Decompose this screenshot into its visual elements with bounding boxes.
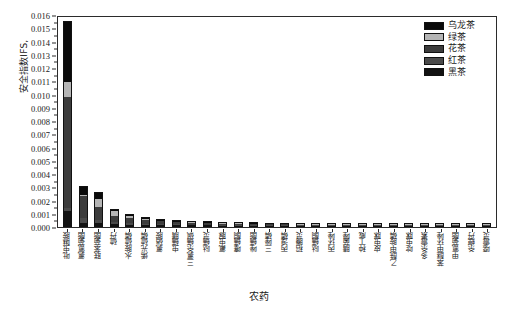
x-axis-slot: 多杀霉素	[417, 229, 433, 291]
bar-slot[interactable]	[401, 17, 417, 227]
stacked-bar[interactable]	[218, 222, 227, 227]
y-axis-tick-label: 0.011	[31, 78, 50, 87]
stacked-bar[interactable]	[389, 223, 398, 227]
y-axis-tick-mark	[52, 108, 56, 109]
x-axis-tick-mark	[114, 229, 115, 232]
x-axis-slot: 氟虫脲	[215, 229, 231, 291]
x-axis-slot: 哒螨酮	[308, 229, 324, 291]
x-axis-slot: 哒螨灵	[199, 229, 215, 291]
legend-item[interactable]: 乌龙茶	[424, 20, 496, 32]
x-axis-slot: 噁霉灵	[480, 229, 496, 291]
legend-item[interactable]: 绿茶	[424, 32, 496, 44]
legend-item[interactable]: 黑茶	[424, 66, 496, 78]
bar-slot[interactable]	[308, 17, 324, 227]
x-axis-tick-label: 噻螨酮	[234, 233, 242, 253]
stacked-bar[interactable]	[156, 219, 165, 227]
x-axis-tick-mark	[82, 229, 83, 232]
y-axis-tick-label: 0.015	[31, 25, 50, 34]
bar-slot[interactable]	[277, 17, 293, 227]
stacked-bar[interactable]	[327, 223, 336, 227]
stacked-bar[interactable]	[172, 220, 181, 227]
y-axis-tick-label: 0.014	[31, 38, 50, 47]
x-axis-tick-label: 种丁威	[359, 233, 367, 253]
x-axis-tick-label: 氯氰菊酯	[78, 233, 86, 260]
bar-slot[interactable]	[339, 17, 355, 227]
bar-slot[interactable]	[293, 17, 309, 227]
bar-slot[interactable]	[138, 17, 154, 227]
bar-slot[interactable]	[215, 17, 231, 227]
bar-segment-黑茶	[204, 225, 211, 226]
bar-slot[interactable]	[107, 17, 123, 227]
x-axis-tick-label: 甲氰菊酯	[452, 233, 460, 260]
x-axis-tick-mark	[285, 229, 286, 232]
stacked-bar[interactable]	[203, 221, 212, 227]
x-axis-slot: 啶虫脒	[402, 229, 418, 291]
stacked-bar[interactable]	[79, 186, 88, 227]
stacked-bar[interactable]	[280, 223, 289, 227]
bar-slot[interactable]	[324, 17, 340, 227]
legend-item[interactable]: 红茶	[424, 55, 496, 67]
x-axis-tick-mark	[378, 229, 379, 232]
stacked-bar[interactable]	[63, 21, 72, 227]
bar-slot[interactable]	[386, 17, 402, 227]
legend-item[interactable]: 花茶	[424, 43, 496, 55]
stacked-bar[interactable]	[373, 223, 382, 227]
bar-segment-黑茶	[173, 225, 180, 226]
bar-slot[interactable]	[60, 17, 76, 227]
bar-segment-花茶	[95, 207, 102, 220]
legend-swatch-红茶	[424, 57, 444, 65]
stacked-bar[interactable]	[141, 217, 150, 227]
stacked-bar[interactable]	[249, 222, 258, 227]
bar-slot[interactable]	[200, 17, 216, 227]
stacked-bar[interactable]	[187, 221, 196, 227]
stacked-bar[interactable]	[358, 223, 367, 227]
x-axis-slot: 皮虫脒	[371, 229, 387, 291]
bar-segment-绿茶	[64, 82, 71, 97]
stacked-bar[interactable]	[125, 214, 134, 227]
stacked-bar[interactable]	[420, 223, 429, 227]
stacked-bar[interactable]	[451, 223, 460, 227]
bar-segment-黑茶	[64, 211, 71, 226]
stacked-bar[interactable]	[234, 222, 243, 227]
bar-slot[interactable]	[370, 17, 386, 227]
bar-slot[interactable]	[91, 17, 107, 227]
x-axis-title: 农药	[0, 288, 517, 303]
y-axis-tick-label: 0.010	[31, 91, 50, 100]
legend: 乌龙茶绿茶花茶红茶黑茶	[424, 20, 496, 78]
stacked-bar[interactable]	[110, 209, 119, 227]
x-axis-tick-label: 丙环唑	[328, 233, 336, 253]
stacked-bar[interactable]	[311, 223, 320, 227]
x-axis-slot: 三唑磷	[262, 229, 278, 291]
bar-slot[interactable]	[184, 17, 200, 227]
stacked-bar[interactable]	[265, 223, 274, 227]
bar-slot[interactable]	[76, 17, 92, 227]
bar-slot[interactable]	[153, 17, 169, 227]
y-axis-tick-mark	[52, 148, 56, 149]
stacked-bar[interactable]	[94, 192, 103, 227]
bar-slot[interactable]	[231, 17, 247, 227]
x-axis-tick-mark	[98, 229, 99, 232]
y-axis: 0.0000.0010.0020.0030.0040.0050.0060.007…	[0, 0, 57, 230]
stacked-bar[interactable]	[404, 223, 413, 227]
stacked-bar[interactable]	[466, 223, 475, 227]
y-axis-tick-mark	[52, 55, 56, 56]
x-axis-tick-label: 皮虫脒	[374, 233, 382, 253]
stacked-bar[interactable]	[296, 223, 305, 227]
bar-slot[interactable]	[122, 17, 138, 227]
stacked-bar[interactable]	[435, 223, 444, 227]
bar-slot[interactable]	[262, 17, 278, 227]
legend-label: 花茶	[448, 44, 466, 53]
bar-slot[interactable]	[246, 17, 262, 227]
legend-swatch-黑茶	[424, 68, 444, 76]
x-axis-tick-label: 多杀霉素	[421, 233, 429, 260]
y-axis-tick-label: 0.000	[31, 224, 50, 233]
x-axis-tick-label: 吡虫啉胺	[63, 233, 71, 260]
bar-slot[interactable]	[355, 17, 371, 227]
stacked-bar[interactable]	[342, 223, 351, 227]
legend-swatch-乌龙茶	[424, 22, 444, 30]
bar-segment-乌龙茶	[80, 187, 87, 195]
bar-slot[interactable]	[169, 17, 185, 227]
y-axis-tick-label: 0.013	[31, 52, 50, 61]
x-axis-tick-mark	[347, 229, 348, 232]
stacked-bar[interactable]	[482, 223, 491, 227]
